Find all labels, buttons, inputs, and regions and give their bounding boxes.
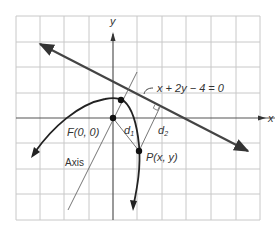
point-p-label: P(x, y) [146, 151, 178, 163]
parabola-right-arrow-icon [130, 200, 137, 211]
focus-point [110, 115, 116, 121]
x-axis-arrow-icon [258, 116, 266, 121]
vertex-point [118, 97, 124, 103]
axis-label: Axis [65, 157, 84, 168]
y-axis-arrow-icon [111, 32, 116, 41]
directrix-equation-label: x + 2y − 4 = 0 [156, 82, 225, 94]
x-axis-label: x [267, 112, 274, 124]
focus-label: F(0, 0) [67, 126, 100, 138]
parabola-curve [35, 98, 140, 203]
d2-segment [139, 107, 160, 151]
point-p [136, 148, 142, 154]
d2-label: d2 [158, 124, 168, 137]
y-axis-label: y [109, 15, 117, 27]
diagram-canvas: y x x + 2y − 4 = 0 F(0, 0) P(x, y) Axis … [0, 0, 275, 232]
parabola-left-arrow-icon [31, 147, 40, 158]
d1-label: d1 [124, 124, 134, 137]
